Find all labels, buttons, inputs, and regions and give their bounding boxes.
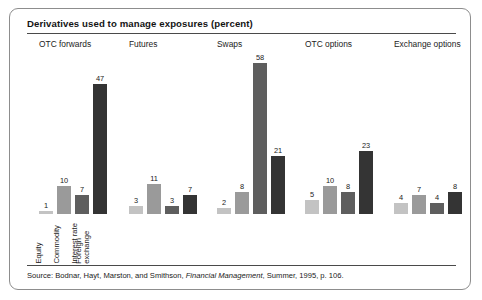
series-label-cell: Equity [39,214,53,265]
bar-group-bars: 285821 [217,54,285,214]
bar-chart-plot: 110747EquityCommodityInterest rateForeig… [27,54,456,265]
bar-item[interactable]: 4 [394,54,408,214]
series-label-cell: Foreignexchange [93,214,107,265]
bar-item[interactable]: 11 [147,54,161,214]
bar-item[interactable]: 8 [341,54,355,214]
bar-rect[interactable] [165,206,179,214]
bar-rect[interactable] [93,84,107,214]
bar-rect[interactable] [75,195,89,214]
bar-item[interactable]: 1 [39,54,53,214]
bar-item[interactable]: 21 [271,54,285,214]
bar-value-label: 7 [80,186,84,194]
bar-rect[interactable] [305,200,319,214]
bar-rect[interactable] [412,195,426,214]
bar-value-label: 1 [44,202,48,210]
bar-rect[interactable] [253,63,267,214]
bar-value-label: 3 [170,197,174,205]
bar-rect[interactable] [271,156,285,214]
series-axis-labels: EquityCommodityInterest rateForeignexcha… [39,214,107,265]
figure-panel: Derivatives used to manage exposures (pe… [9,8,471,290]
bar-item[interactable]: 7 [183,54,197,214]
bar-item[interactable]: 7 [412,54,426,214]
bar-value-label: 58 [256,54,264,62]
bar-rect[interactable] [183,195,197,214]
bar-item[interactable]: 4 [430,54,444,214]
bar-group-bars: 31137 [129,54,197,214]
source-note: Source: Bodnar, Hayt, Marston, and Smith… [27,266,456,280]
group-label-row: OTC forwardsFuturesSwapsOTC optionsExcha… [27,37,456,54]
bar-value-label: 2 [222,199,226,207]
series-label-line2: exchange [84,231,92,264]
bar-rect[interactable] [147,184,161,214]
bar-item[interactable]: 3 [129,54,143,214]
bar-rect[interactable] [217,208,231,214]
bar-item[interactable]: 10 [57,54,71,214]
series-label-commodity: Commodity [53,226,61,264]
series-label-cell: Commodity [57,214,71,265]
bar-rect[interactable] [57,186,71,214]
bar-item[interactable]: 3 [165,54,179,214]
bar-item[interactable]: 23 [359,54,373,214]
figure-inner: Derivatives used to manage exposures (pe… [27,18,456,281]
bar-value-label: 5 [310,191,314,199]
bar-value-label: 8 [453,183,457,191]
bar-group-bars: 510823 [305,54,373,214]
source-publication: Financial Management [186,271,263,280]
bar-rect[interactable] [235,192,249,214]
group-label-swaps: Swaps [217,39,242,49]
bar-value-label: 11 [150,175,158,183]
bar-item[interactable]: 8 [235,54,249,214]
bar-rect[interactable] [448,192,462,214]
bar-value-label: 23 [362,142,370,150]
bar-rect[interactable] [341,192,355,214]
bar-value-label: 21 [274,147,282,155]
bar-value-label: 8 [346,183,350,191]
bar-rect[interactable] [323,186,337,214]
group-label-otc-options: OTC options [305,39,352,49]
bar-value-label: 4 [399,194,403,202]
bar-value-label: 7 [188,186,192,194]
bar-item[interactable]: 7 [75,54,89,214]
chart-title: Derivatives used to manage exposures (pe… [27,18,456,33]
bar-item[interactable]: 10 [323,54,337,214]
bar-item[interactable]: 58 [253,54,267,214]
bar-item[interactable]: 47 [93,54,107,214]
bar-value-label: 7 [417,186,421,194]
bar-value-label: 10 [326,177,334,185]
bar-group-bars: 110747 [39,54,107,214]
bar-value-label: 10 [60,177,68,185]
bar-value-label: 3 [134,197,138,205]
bar-value-label: 8 [240,183,244,191]
bar-rect[interactable] [394,203,408,214]
bar-group-bars: 4748 [394,54,462,214]
bar-value-label: 47 [96,75,104,83]
bar-item[interactable]: 2 [217,54,231,214]
bar-item[interactable]: 8 [448,54,462,214]
group-label-otc-forwards: OTC forwards [39,39,91,49]
group-label-futures: Futures [129,39,157,49]
title-divider [27,33,456,34]
series-label-equity: Equity [35,243,43,264]
bar-value-label: 4 [435,194,439,202]
source-prefix: Source: Bodnar, Hayt, Marston, and Smith… [27,271,186,280]
bar-rect[interactable] [129,206,143,214]
source-suffix: , Summer, 1995, p. 106. [263,271,344,280]
bar-rect[interactable] [430,203,444,214]
bar-item[interactable]: 5 [305,54,319,214]
group-label-exchange-options: Exchange options [394,39,461,49]
bar-rect[interactable] [359,151,373,214]
series-label-foreign-exchange: Foreignexchange [75,231,92,264]
